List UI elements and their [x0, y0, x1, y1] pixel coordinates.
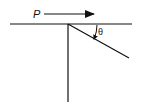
physics-diagram: P θ: [0, 0, 142, 112]
force-label-p: P: [33, 8, 41, 20]
angle-arc-theta: [94, 25, 97, 39]
angle-label-theta: θ: [98, 27, 103, 37]
